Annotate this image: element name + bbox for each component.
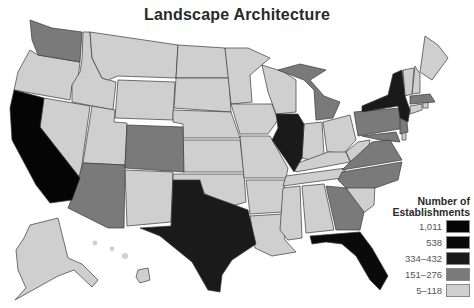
state-kansas[interactable] bbox=[183, 140, 244, 172]
legend-title-line2: Establishments bbox=[384, 207, 470, 218]
legend-item: 538 bbox=[384, 234, 470, 250]
legend-swatch bbox=[446, 252, 470, 265]
state-hawaii-island bbox=[122, 253, 128, 259]
state-arkansas[interactable] bbox=[246, 180, 285, 214]
state-new-mexico[interactable] bbox=[125, 170, 173, 226]
legend-item: 151–276 bbox=[384, 266, 470, 282]
legend-swatch bbox=[446, 220, 470, 233]
legend-label: 1,011 bbox=[419, 221, 442, 232]
state-alaska[interactable] bbox=[15, 218, 98, 300]
legend-label: 151–276 bbox=[405, 269, 442, 280]
state-north-dakota[interactable] bbox=[176, 45, 229, 78]
legend-label: 334–432 bbox=[405, 253, 442, 264]
legend: Number of Establishments 1,011 538 334–4… bbox=[384, 196, 470, 298]
legend-swatch bbox=[446, 284, 470, 297]
state-tennessee[interactable] bbox=[283, 168, 346, 186]
state-massachusetts[interactable] bbox=[410, 94, 435, 104]
state-wyoming[interactable] bbox=[115, 80, 175, 120]
state-mississippi[interactable] bbox=[280, 186, 302, 240]
state-montana[interactable] bbox=[90, 32, 178, 80]
state-south-dakota[interactable] bbox=[174, 78, 231, 112]
state-colorado[interactable] bbox=[125, 125, 184, 172]
legend-item: 334–432 bbox=[384, 250, 470, 266]
legend-item: 5–118 bbox=[384, 282, 470, 298]
legend-swatch bbox=[446, 268, 470, 281]
legend-label: 538 bbox=[426, 237, 442, 248]
legend-item: 1,011 bbox=[384, 218, 470, 234]
legend-label: 5–118 bbox=[416, 285, 442, 296]
state-maine[interactable] bbox=[420, 36, 448, 80]
state-hawaii-island bbox=[93, 241, 98, 246]
state-connecticut[interactable] bbox=[410, 104, 422, 114]
legend-swatch bbox=[446, 236, 470, 249]
state-ohio[interactable] bbox=[323, 115, 356, 153]
state-hawaii[interactable] bbox=[136, 268, 150, 283]
state-minnesota[interactable] bbox=[225, 48, 270, 104]
state-iowa[interactable] bbox=[231, 104, 278, 134]
state-hawaii-island bbox=[110, 247, 115, 252]
state-indiana[interactable] bbox=[302, 122, 324, 160]
state-florida[interactable] bbox=[310, 232, 388, 290]
state-pennsylvania[interactable] bbox=[354, 108, 405, 136]
